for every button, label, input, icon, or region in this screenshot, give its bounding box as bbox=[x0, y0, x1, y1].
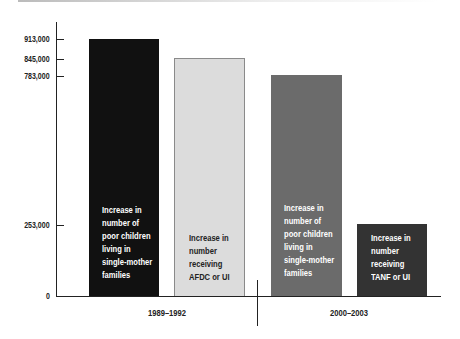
y-tick-label: 913,000 bbox=[25, 34, 50, 44]
bar-label: Increase in number receiving AFDC or UI bbox=[189, 231, 230, 283]
group-divider bbox=[257, 280, 258, 326]
y-axis bbox=[56, 22, 57, 297]
group-label-1989-1992: 1989–1992 bbox=[148, 307, 186, 318]
bar-label: Increase in number receiving TANF or UI bbox=[371, 231, 411, 283]
group-label-2000-2003: 2000–2003 bbox=[330, 307, 368, 318]
y-tick-label: 845,000 bbox=[25, 54, 50, 64]
y-tick-label: 253,000 bbox=[25, 220, 50, 230]
bar-label: Increase in number of poor children livi… bbox=[102, 203, 152, 281]
bar-label: Increase in number of poor children livi… bbox=[284, 201, 334, 279]
y-tick-label: 783,000 bbox=[25, 71, 50, 81]
y-tick bbox=[56, 76, 64, 77]
x-axis bbox=[56, 296, 441, 297]
y-tick bbox=[56, 59, 64, 60]
top-rule bbox=[18, 0, 438, 2]
y-tick-label: 0 bbox=[46, 291, 50, 301]
y-tick bbox=[56, 225, 64, 226]
y-tick bbox=[56, 39, 64, 40]
